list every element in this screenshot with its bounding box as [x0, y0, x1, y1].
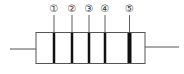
band-1-label: ① [50, 3, 59, 14]
band-4-label: ④ [101, 3, 110, 14]
band-4-stripe [104, 33, 107, 63]
band-5-label: ⑤ [125, 3, 134, 14]
band-3-label: ③ [85, 3, 94, 14]
band-1-stripe [53, 33, 56, 63]
band-3-stripe [88, 33, 91, 63]
band-2-label: ② [68, 3, 77, 14]
resistor-diagram: ① ② ③ ④ ⑤ [0, 0, 184, 74]
band-2-stripe [71, 33, 74, 63]
band-5-stripe [128, 33, 132, 63]
